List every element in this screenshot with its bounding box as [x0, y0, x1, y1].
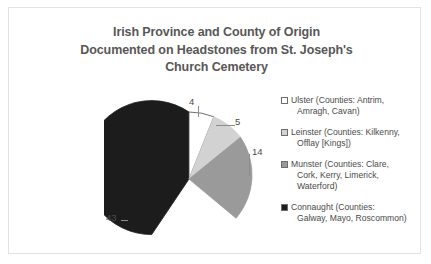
- legend-line: Amragh, Cavan): [291, 106, 360, 117]
- data-label-ulster: 4: [189, 96, 194, 107]
- legend-item-label: Munster (Counties: Clare, Cork, Kerry, L…: [291, 159, 389, 193]
- pie-chart-svg: [104, 96, 279, 256]
- legend-item-munster[interactable]: Munster (Counties: Clare, Cork, Kerry, L…: [281, 159, 431, 193]
- light-gray-swatch: [281, 129, 288, 136]
- white-swatch: [281, 97, 288, 104]
- data-label-connaught: 43: [106, 212, 117, 223]
- legend-line: Ulster (Counties: Antrim,: [291, 95, 384, 105]
- legend-line: Galway, Mayo, Roscommon): [291, 213, 407, 224]
- pie-chart: [104, 96, 279, 256]
- legend-line: Offlay [Kings]): [291, 138, 351, 149]
- black-swatch: [281, 204, 288, 211]
- legend-line: Munster (Counties: Clare,: [291, 159, 389, 169]
- page-title: Irish Province and County of Origin Docu…: [39, 24, 394, 77]
- medium-gray-swatch: [281, 161, 288, 168]
- leader-line-leinster: [216, 125, 235, 126]
- legend-item-label: Ulster (Counties: Antrim, Amragh, Cavan): [291, 95, 384, 118]
- legend-line: Leinster (Counties: Kilkenny,: [291, 127, 400, 137]
- data-label-munster: 14: [252, 146, 263, 157]
- legend-item-label: Leinster (Counties: Kilkenny, Offlay [Ki…: [291, 127, 400, 150]
- title-line-2: Documented on Headstones from St. Joseph…: [39, 42, 394, 60]
- title-line-1: Irish Province and County of Origin: [39, 24, 394, 42]
- legend-line: Cork, Kerry, Limerick,: [291, 170, 379, 181]
- chart-page: Irish Province and County of Origin Docu…: [0, 0, 431, 264]
- leader-line-munster: [249, 154, 250, 176]
- leader-line-connaught: [121, 220, 128, 221]
- legend-line: Connaught (Counties:: [291, 202, 375, 212]
- chart-frame: Irish Province and County of Origin Docu…: [8, 7, 421, 254]
- chart-legend: Ulster (Counties: Antrim, Amragh, Cavan)…: [281, 95, 431, 234]
- legend-item-label: Connaught (Counties: Galway, Mayo, Rosco…: [291, 202, 407, 225]
- title-line-3: Church Cemetery: [39, 59, 394, 77]
- legend-line: Waterford): [291, 181, 337, 192]
- legend-item-connaught[interactable]: Connaught (Counties: Galway, Mayo, Rosco…: [281, 202, 431, 225]
- legend-item-leinster[interactable]: Leinster (Counties: Kilkenny, Offlay [Ki…: [281, 127, 431, 150]
- leader-line-ulster: [198, 106, 199, 117]
- legend-item-ulster[interactable]: Ulster (Counties: Antrim, Amragh, Cavan): [281, 95, 431, 118]
- pie-slice-connaught[interactable]: [104, 101, 189, 235]
- data-label-leinster: 5: [235, 116, 240, 127]
